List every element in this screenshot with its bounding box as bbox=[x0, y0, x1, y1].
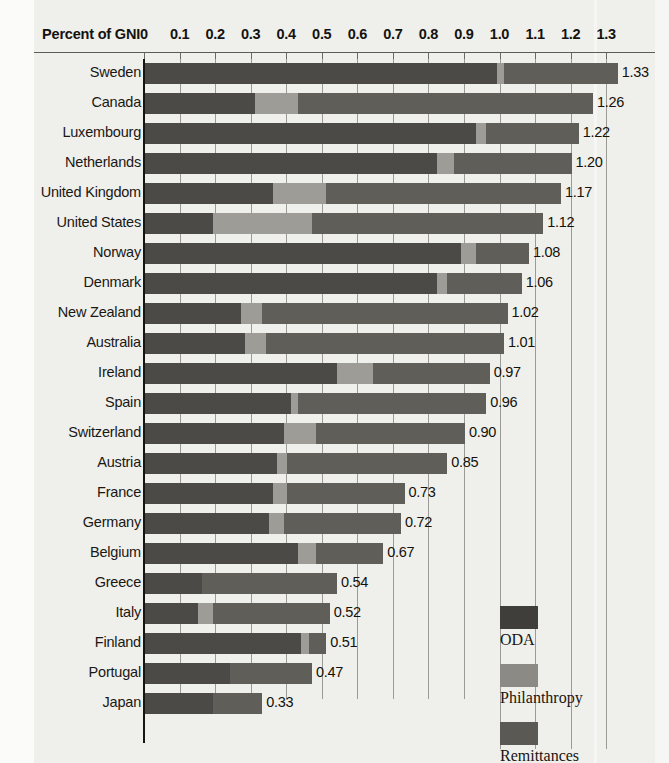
bar-row[interactable]: Luxembourg1.22 bbox=[0, 120, 669, 150]
bar-segment-remittances[interactable] bbox=[266, 333, 504, 354]
bar-segment-philanthropy[interactable] bbox=[497, 63, 504, 84]
x-tick-label-0.9: 0.9 bbox=[454, 26, 473, 42]
bar-row[interactable]: Switzerland0.90 bbox=[0, 420, 669, 450]
bar-segment-oda[interactable] bbox=[145, 543, 298, 564]
legend-label-oda: ODA bbox=[500, 631, 583, 649]
bar-segment-philanthropy[interactable] bbox=[291, 393, 298, 414]
legend-swatch-philanthropy-icon bbox=[500, 664, 538, 687]
bar-segment-philanthropy[interactable] bbox=[273, 183, 326, 204]
bar-row[interactable]: Spain0.96 bbox=[0, 390, 669, 420]
bar-segment-oda[interactable] bbox=[145, 363, 337, 384]
bar-segment-remittances[interactable] bbox=[202, 573, 337, 594]
country-label-portugal: Portugal bbox=[89, 664, 141, 680]
bar-segment-remittances[interactable] bbox=[316, 543, 384, 564]
bar-segment-oda[interactable] bbox=[145, 273, 437, 294]
bar-segment-oda[interactable] bbox=[145, 123, 476, 144]
country-label-netherlands: Netherlands bbox=[65, 154, 141, 170]
bar-segment-oda[interactable] bbox=[145, 453, 277, 474]
bar-value-label: 0.33 bbox=[266, 694, 293, 710]
bar-segment-oda[interactable] bbox=[145, 213, 213, 234]
bar-row[interactable]: Norway1.08 bbox=[0, 240, 669, 270]
bar-segment-remittances[interactable] bbox=[486, 123, 578, 144]
x-tick-label-1.1: 1.1 bbox=[525, 26, 544, 42]
bar-segment-oda[interactable] bbox=[145, 513, 269, 534]
bar-segment-philanthropy[interactable] bbox=[255, 93, 298, 114]
bar-segment-philanthropy[interactable] bbox=[269, 513, 283, 534]
bar-segment-philanthropy[interactable] bbox=[437, 273, 448, 294]
bar-segment-philanthropy[interactable] bbox=[298, 543, 316, 564]
bar-segment-philanthropy[interactable] bbox=[337, 363, 373, 384]
bar-row[interactable]: Denmark1.06 bbox=[0, 270, 669, 300]
bar-segment-oda[interactable] bbox=[145, 423, 284, 444]
bar-row[interactable]: Austria0.85 bbox=[0, 450, 669, 480]
bar-row[interactable]: United States1.12 bbox=[0, 210, 669, 240]
bar-segment-philanthropy[interactable] bbox=[284, 423, 316, 444]
bar-row[interactable]: Canada1.26 bbox=[0, 90, 669, 120]
bar-segment-remittances[interactable] bbox=[504, 63, 618, 84]
bar-segment-remittances[interactable] bbox=[312, 213, 543, 234]
bar-segment-remittances[interactable] bbox=[373, 363, 490, 384]
bar-value-label: 0.47 bbox=[316, 664, 343, 680]
x-tick-label-0.4: 0.4 bbox=[277, 26, 296, 42]
bar-segment-oda[interactable] bbox=[145, 333, 245, 354]
bar-row[interactable]: Sweden1.33 bbox=[0, 60, 669, 90]
bar-segment-oda[interactable] bbox=[145, 633, 301, 654]
bar-segment-philanthropy[interactable] bbox=[245, 333, 266, 354]
bar-segment-remittances[interactable] bbox=[284, 513, 401, 534]
bar-row[interactable]: Greece0.54 bbox=[0, 570, 669, 600]
bar-segment-remittances[interactable] bbox=[298, 93, 593, 114]
x-tick-label-0.2: 0.2 bbox=[205, 26, 224, 42]
bar-row[interactable]: France0.73 bbox=[0, 480, 669, 510]
bar-segment-remittances[interactable] bbox=[213, 603, 330, 624]
bar-segment-remittances[interactable] bbox=[262, 303, 507, 324]
bar-row[interactable]: Australia1.01 bbox=[0, 330, 669, 360]
bar-segment-oda[interactable] bbox=[145, 393, 291, 414]
bar-row[interactable]: Belgium0.67 bbox=[0, 540, 669, 570]
bar-segment-philanthropy[interactable] bbox=[476, 123, 487, 144]
bar-segment-remittances[interactable] bbox=[213, 693, 263, 714]
bar-segment-remittances[interactable] bbox=[447, 273, 522, 294]
legend-swatch-oda-icon bbox=[500, 606, 538, 629]
bar-segment-philanthropy[interactable] bbox=[198, 603, 212, 624]
bar-segment-remittances[interactable] bbox=[298, 393, 486, 414]
x-tick-label-0.5: 0.5 bbox=[312, 26, 331, 42]
bar-segment-remittances[interactable] bbox=[287, 483, 404, 504]
bar-row[interactable]: Netherlands1.20 bbox=[0, 150, 669, 180]
bar-row[interactable]: United Kingdom1.17 bbox=[0, 180, 669, 210]
bar-segment-oda[interactable] bbox=[145, 93, 255, 114]
bar-segment-oda[interactable] bbox=[145, 183, 273, 204]
bar-row[interactable]: Ireland0.97 bbox=[0, 360, 669, 390]
bar-segment-remittances[interactable] bbox=[454, 153, 571, 174]
bar-segment-oda[interactable] bbox=[145, 603, 198, 624]
bar-segment-remittances[interactable] bbox=[230, 663, 312, 684]
bar-row[interactable]: New Zealand1.02 bbox=[0, 300, 669, 330]
bar-segment-oda[interactable] bbox=[145, 303, 241, 324]
bar-row[interactable]: Germany0.72 bbox=[0, 510, 669, 540]
bar-segment-oda[interactable] bbox=[145, 63, 497, 84]
bar-value-label: 0.90 bbox=[469, 424, 496, 440]
country-label-japan: Japan bbox=[102, 694, 141, 710]
country-label-new-zealand: New Zealand bbox=[58, 304, 141, 320]
bar-segment-oda[interactable] bbox=[145, 153, 437, 174]
bar-segment-oda[interactable] bbox=[145, 243, 461, 264]
bar-segment-philanthropy[interactable] bbox=[437, 153, 455, 174]
bar-segment-oda[interactable] bbox=[145, 483, 273, 504]
bar-segment-philanthropy[interactable] bbox=[273, 483, 287, 504]
bar-segment-philanthropy[interactable] bbox=[213, 213, 313, 234]
bar-segment-remittances[interactable] bbox=[309, 633, 327, 654]
bar-value-label: 0.51 bbox=[330, 634, 357, 650]
bar-segment-remittances[interactable] bbox=[316, 423, 465, 444]
bar-segment-philanthropy[interactable] bbox=[301, 633, 308, 654]
bar-segment-philanthropy[interactable] bbox=[241, 303, 262, 324]
bar-segment-remittances[interactable] bbox=[287, 453, 447, 474]
bar-segment-philanthropy[interactable] bbox=[277, 453, 288, 474]
country-label-switzerland: Switzerland bbox=[68, 424, 141, 440]
bar-value-label: 0.97 bbox=[494, 364, 521, 380]
bar-segment-oda[interactable] bbox=[145, 663, 230, 684]
bar-segment-remittances[interactable] bbox=[476, 243, 529, 264]
x-tick-label-1.0: 1.0 bbox=[490, 26, 509, 42]
bar-segment-oda[interactable] bbox=[145, 573, 202, 594]
bar-segment-remittances[interactable] bbox=[326, 183, 561, 204]
bar-segment-oda[interactable] bbox=[145, 693, 213, 714]
bar-segment-philanthropy[interactable] bbox=[461, 243, 475, 264]
